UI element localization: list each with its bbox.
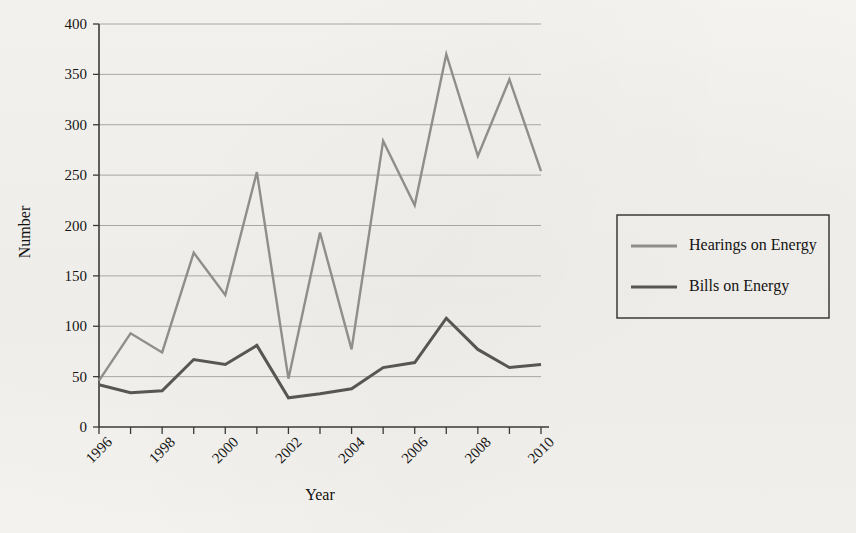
x-axis-title: Year [305, 486, 335, 503]
y-tick-label: 300 [65, 117, 88, 133]
y-tick-label: 400 [65, 16, 88, 32]
x-tick-label: 2008 [461, 434, 494, 467]
line-chart: 050100150200250300350400 199619982000200… [0, 0, 856, 533]
legend: Hearings on EnergyBills on Energy [617, 215, 829, 318]
legend-box [617, 215, 829, 318]
data-series [99, 54, 541, 398]
x-tick-label: 2004 [335, 433, 368, 466]
y-tick-label: 150 [65, 268, 88, 284]
x-tick-labels: 19961998200020022004200620082010 [83, 427, 558, 466]
x-tick-label: 2006 [398, 433, 431, 466]
x-tick-label: 2002 [272, 434, 305, 467]
y-tick-labels: 050100150200250300350400 [65, 16, 100, 435]
legend-label-2: Bills on Energy [689, 277, 789, 295]
x-tick-label: 1998 [146, 434, 179, 467]
x-tick-label: 1996 [83, 433, 116, 466]
y-axis-title: Number [16, 205, 33, 258]
x-tick-label: 2010 [525, 434, 558, 467]
chart-canvas: 050100150200250300350400 199619982000200… [0, 0, 856, 533]
series-line-2 [99, 318, 541, 398]
gridlines [99, 24, 541, 377]
x-tick-label: 2000 [209, 434, 242, 467]
y-tick-label: 50 [72, 369, 87, 385]
y-tick-label: 100 [65, 318, 88, 334]
y-tick-label: 350 [65, 66, 88, 82]
y-tick-label: 0 [80, 419, 88, 435]
series-line-1 [99, 54, 541, 380]
y-tick-label: 250 [65, 167, 88, 183]
y-tick-label: 200 [65, 218, 88, 234]
legend-label-1: Hearings on Energy [689, 236, 817, 254]
